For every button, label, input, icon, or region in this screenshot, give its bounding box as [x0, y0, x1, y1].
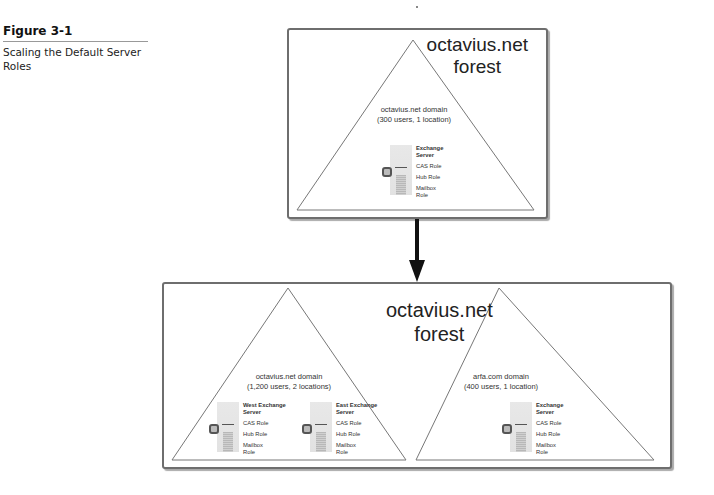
figure-number: Figure 3-1	[3, 24, 148, 42]
server-plug-icon	[209, 424, 219, 434]
role-mailbox: MailboxRole	[336, 442, 377, 456]
east-exchange-server: East ExchangeServer CAS Role Hub Role Ma…	[302, 402, 382, 460]
forest-box-after: octavius.net forest octavius.net domain …	[162, 282, 672, 469]
forest-label: octavius.net forest	[427, 34, 528, 78]
arfa-exchange-server: ExchangeServer CAS Role Hub Role Mailbox…	[502, 402, 582, 460]
role-cas: CAS Role	[536, 420, 563, 427]
role-cas: CAS Role	[416, 163, 443, 170]
role-cas: CAS Role	[336, 420, 377, 427]
server-tower-icon	[310, 402, 332, 452]
server-plug-icon	[502, 424, 512, 434]
figure-title: Scaling the Default Server Roles	[3, 45, 148, 73]
role-mailbox: MailboxRole	[416, 185, 443, 199]
role-hub: Hub Role	[336, 431, 377, 438]
figure-caption: Figure 3-1 Scaling the Default Server Ro…	[3, 24, 148, 73]
exchange-server: ExchangeServer CAS Role Hub Role Mailbox…	[382, 145, 462, 203]
server-tower-icon	[217, 402, 239, 452]
domain-label: octavius.net domain (300 users, 1 locati…	[344, 105, 484, 125]
scan-speck	[416, 6, 418, 8]
west-exchange-server: West ExchangeServer CAS Role Hub Role Ma…	[209, 402, 289, 460]
server-tower-icon	[390, 145, 412, 195]
server-tower-icon	[510, 402, 532, 452]
domain-label-octavius: octavius.net domain (1,200 users, 2 loca…	[219, 372, 359, 392]
forest-label: octavius.net forest	[386, 298, 493, 346]
role-hub: Hub Role	[243, 431, 286, 438]
role-cas: CAS Role	[243, 420, 286, 427]
role-hub: Hub Role	[416, 174, 443, 181]
domain-label-arfa: arfa.com domain (400 users, 1 location)	[431, 372, 571, 392]
role-mailbox: MailboxRole	[243, 442, 286, 456]
role-hub: Hub Role	[536, 431, 563, 438]
forest-box-before: octavius.net forest octavius.net domain …	[287, 28, 548, 219]
role-mailbox: MailboxRole	[536, 442, 563, 456]
server-plug-icon	[382, 167, 392, 177]
server-plug-icon	[302, 424, 312, 434]
